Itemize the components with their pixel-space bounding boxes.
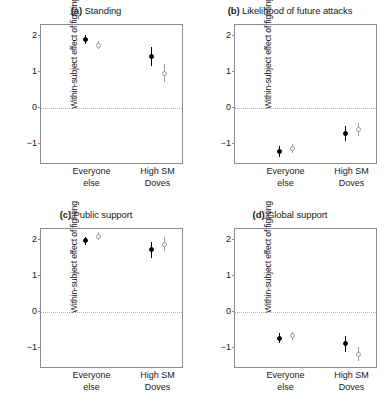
panel-a-x-tick-label-1: High SMDoves: [120, 166, 196, 189]
panel-a-zero-line: [41, 108, 182, 109]
point-estimate-marker: [162, 242, 167, 247]
point-estimate-marker: [277, 149, 282, 154]
x-tick-line2: else: [248, 382, 324, 394]
panel-c-y-axis-label: Within-subject effect of fighting: [68, 186, 80, 328]
panel-d-title: (d) Global support: [194, 208, 386, 222]
figure-panel-grid: (a) StandingWithin-subject effect of fig…: [0, 0, 388, 408]
panel-a-y-tick: 2: [19, 30, 41, 41]
panel-d-plot-area: Within-subject effect of fighting210−1Ev…: [234, 228, 377, 368]
x-tick-line2: Doves: [120, 178, 196, 190]
panel-c-y-tick: 2: [19, 234, 41, 245]
x-tick-line2: Doves: [314, 382, 388, 394]
point-estimate-marker: [96, 234, 101, 239]
panel-a-y-tick: −1: [19, 138, 41, 149]
panel-d-y-tick: 0: [213, 306, 235, 317]
panel-c: (c) Public supportWithin-subject effect …: [0, 204, 194, 408]
point-estimate-marker: [356, 352, 361, 357]
panel-a-y-tick: 0: [19, 102, 41, 113]
panel-b-y-tick: 0: [213, 102, 235, 113]
point-estimate-marker: [277, 336, 282, 341]
point-estimate-marker: [290, 333, 295, 338]
panel-d-y-axis-label: Within-subject effect of fighting: [262, 186, 274, 328]
point-estimate-marker: [96, 43, 101, 48]
panel-d: (d) Global supportWithin-subject effect …: [194, 204, 388, 408]
point-estimate-marker: [162, 71, 167, 76]
point-estimate-marker: [343, 131, 348, 136]
panel-a: (a) StandingWithin-subject effect of fig…: [0, 0, 194, 204]
x-tick-line1: Everyone: [248, 370, 324, 382]
panel-b-x-tick-label-1: High SMDoves: [314, 166, 388, 189]
panel-b-title: (b) Likelihood of future attacks: [194, 4, 386, 18]
panel-c-title: (c) Public support: [0, 208, 192, 222]
panel-d-zero-line: [235, 312, 376, 313]
panel-c-y-tick: 1: [19, 270, 41, 281]
panel-d-title-text: Global support: [267, 209, 327, 220]
panel-a-plot-area: Within-subject effect of fighting210−1Ev…: [40, 24, 183, 164]
panel-b-y-tick: 1: [213, 66, 235, 77]
panel-a-title-text: Standing: [85, 5, 122, 16]
x-tick-line1: High SM: [120, 370, 196, 382]
point-estimate-marker: [343, 341, 348, 346]
panel-c-zero-line: [41, 312, 182, 313]
point-estimate-marker: [356, 127, 361, 132]
panel-b-y-tick: 2: [213, 30, 235, 41]
x-tick-line2: Doves: [120, 382, 196, 394]
x-tick-line1: Everyone: [54, 370, 130, 382]
panel-a-title: (a) Standing: [0, 4, 192, 18]
x-tick-line1: Everyone: [54, 166, 130, 178]
point-estimate-marker: [290, 146, 295, 151]
point-estimate-marker: [83, 238, 88, 243]
panel-a-y-axis-label: Within-subject effect of fighting: [68, 0, 80, 124]
panel-b-x-tick-label-0: Everyoneelse: [248, 166, 324, 189]
x-tick-line2: Doves: [314, 178, 388, 190]
panel-b-y-axis-label: Within-subject effect of fighting: [262, 0, 274, 124]
x-tick-line1: High SM: [314, 370, 388, 382]
point-estimate-marker: [149, 247, 154, 252]
panel-a-x-tick-label-0: Everyoneelse: [54, 166, 130, 189]
panel-d-y-tick: −1: [213, 342, 235, 353]
x-tick-line2: else: [54, 382, 130, 394]
point-estimate-marker: [149, 54, 154, 59]
panel-b-label: (b): [228, 5, 240, 16]
x-tick-line2: else: [248, 178, 324, 190]
panel-b-zero-line: [235, 108, 376, 109]
panel-c-x-tick-label-0: Everyoneelse: [54, 370, 130, 393]
x-tick-line1: High SM: [120, 166, 196, 178]
panel-d-y-tick: 2: [213, 234, 235, 245]
panel-c-title-text: Public support: [74, 209, 133, 220]
x-tick-line1: Everyone: [248, 166, 324, 178]
panel-c-x-tick-label-1: High SMDoves: [120, 370, 196, 393]
panel-b-plot-area: Within-subject effect of fighting210−1Ev…: [234, 24, 377, 164]
panel-b-y-tick: −1: [213, 138, 235, 149]
x-tick-line2: else: [54, 178, 130, 190]
point-estimate-marker: [83, 37, 88, 42]
panel-a-y-tick: 1: [19, 66, 41, 77]
panel-d-x-tick-label-0: Everyoneelse: [248, 370, 324, 393]
panel-c-plot-area: Within-subject effect of fighting210−1Ev…: [40, 228, 183, 368]
panel-c-y-tick: 0: [19, 306, 41, 317]
x-tick-line1: High SM: [314, 166, 388, 178]
panel-b: (b) Likelihood of future attacksWithin-s…: [194, 0, 388, 204]
panel-c-y-tick: −1: [19, 342, 41, 353]
panel-b-title-text: Likelihood of future attacks: [242, 5, 352, 16]
panel-d-y-tick: 1: [213, 270, 235, 281]
panel-d-x-tick-label-1: High SMDoves: [314, 370, 388, 393]
